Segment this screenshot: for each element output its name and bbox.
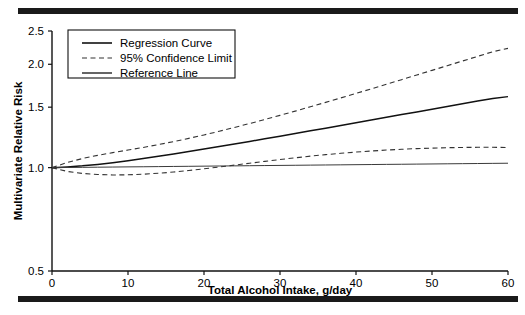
y-tick-label: 1.5: [28, 101, 44, 113]
top-rule-divider: [18, 8, 518, 14]
x-tick-label: 0: [49, 277, 55, 289]
y-tick-label: 2.5: [28, 25, 44, 37]
legend: Regression Curve95% Confidence LimitRefe…: [68, 30, 235, 79]
x-axis-title: Total Alcohol Intake, g/day: [208, 284, 353, 296]
x-tick-label: 50: [426, 277, 439, 289]
legend-label-0: Regression Curve: [120, 37, 212, 49]
legend-label-2: Reference Line: [120, 67, 198, 79]
regression-curve: [52, 97, 508, 168]
y-tick-label: 1.0: [28, 162, 44, 174]
reference-line: [52, 163, 508, 167]
x-tick-label: 60: [502, 277, 515, 289]
legend-label-1: 95% Confidence Limit: [120, 52, 233, 64]
y-tick-label: 2.0: [28, 58, 44, 70]
line-chart: 0.51.01.52.02.5 0102030405060 Total Alco…: [0, 0, 525, 315]
y-axis-ticks: 0.51.01.52.02.5: [28, 25, 52, 277]
bottom-rule-divider: [18, 296, 518, 302]
y-tick-label: 0.5: [28, 265, 44, 277]
figure-container: 0.51.01.52.02.5 0102030405060 Total Alco…: [0, 0, 525, 315]
x-tick-label: 10: [122, 277, 135, 289]
y-axis-title: Multivariate Relative Risk: [12, 81, 24, 220]
